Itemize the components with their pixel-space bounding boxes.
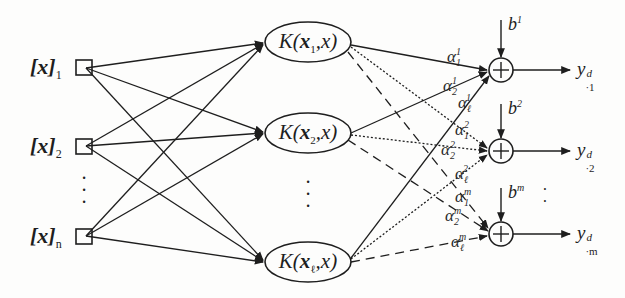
bias-label-m: bm [508,182,524,203]
kernel-nodes [265,22,351,282]
weight-label-2-1: α21 [443,75,457,97]
output-label-m: yd·m [577,222,601,244]
weight-label-l-1: αℓ1 [458,92,471,114]
input-label-n: [x]n [30,223,62,252]
weight-label-2-m: α2m [445,205,461,227]
kernel-label-2: K(x2,x) [265,120,351,146]
input-kernel-edges [86,43,263,262]
input-nodes [76,60,92,244]
kernel-label-l: K(xℓ,x) [265,249,351,275]
edges-output-2 [351,47,487,259]
input-node-2 [76,139,92,154]
weight-label-1-2: α12 [455,119,469,141]
edges-output-m [348,52,488,262]
weight-label-2-2: α22 [441,139,455,161]
weight-label-l-2: αℓ2 [455,163,468,185]
edges-output-1 [351,45,489,258]
bias-label-1: b1 [508,14,522,35]
weight-label-l-m: αℓm [451,231,466,253]
output-label-2: yd·2 [577,139,599,161]
input-label-1: [x]1 [30,54,62,83]
weight-label-1-1: α11 [447,46,461,68]
kernel-ellipsis: ··· [303,176,313,212]
output-ellipsis: ·· [540,184,550,208]
bias-label-2: b2 [508,98,522,119]
input-label-2: [x]2 [30,133,62,162]
input-ellipsis: ··· [79,172,89,208]
output-label-1: yd·1 [577,58,599,80]
kernel-label-1: K(x1,x) [265,29,351,55]
